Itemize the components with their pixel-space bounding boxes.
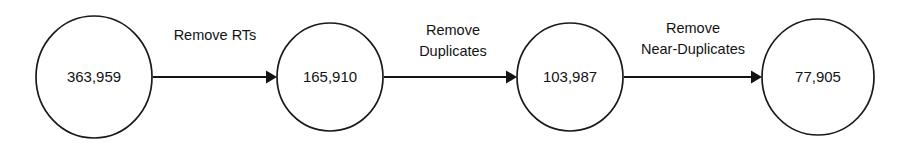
arrowhead-icon-1: [266, 71, 277, 84]
edge-remove-duplicates: Remove Duplicates: [384, 22, 517, 84]
flow-diagram-canvas: Remove RTs Remove Duplicates Remove Near…: [0, 0, 913, 155]
node-value-4: 77,905: [795, 68, 841, 85]
arrowhead-icon-2: [506, 71, 517, 84]
node-value-3: 103,987: [543, 68, 597, 85]
arrowhead-icon-3: [751, 71, 762, 84]
node-stage-2: 165,910: [277, 23, 383, 131]
node-value-1: 363,959: [67, 68, 121, 85]
node-stage-4: 77,905: [762, 19, 874, 135]
edge-label-1-line-1: Remove RTs: [174, 27, 257, 43]
pipeline-diagram: Remove RTs Remove Duplicates Remove Near…: [0, 0, 913, 155]
node-stage-1: 363,959: [36, 16, 152, 138]
edge-label-2-line-1: Remove: [426, 22, 480, 38]
edge-label-3-line-2: Near-Duplicates: [641, 41, 745, 57]
node-value-2: 165,910: [303, 68, 357, 85]
edge-label-3-line-1: Remove: [666, 20, 720, 36]
node-stage-3: 103,987: [517, 23, 623, 131]
edge-remove-near-duplicates: Remove Near-Duplicates: [624, 20, 762, 84]
edge-label-2-line-2: Duplicates: [419, 43, 487, 59]
edge-remove-rts: Remove RTs: [153, 27, 277, 84]
